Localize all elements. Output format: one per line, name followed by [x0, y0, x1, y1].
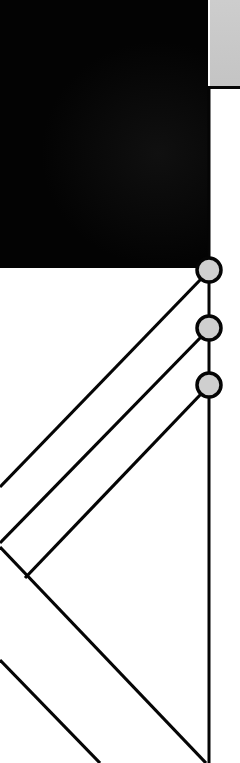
diagonal-lines — [0, 279, 206, 763]
diagonal-line-2 — [0, 337, 201, 543]
nodes — [197, 258, 221, 397]
diagonal-line-5 — [0, 660, 100, 763]
diagonal-line-4 — [0, 547, 206, 763]
diagram-canvas — [0, 0, 240, 763]
diagonal-line-3 — [25, 394, 201, 578]
node-circle-2 — [197, 316, 221, 340]
node-circle-3 — [197, 373, 221, 397]
node-circle-1 — [197, 258, 221, 282]
diagonal-line-1 — [0, 279, 201, 487]
connector-lines — [0, 0, 240, 763]
